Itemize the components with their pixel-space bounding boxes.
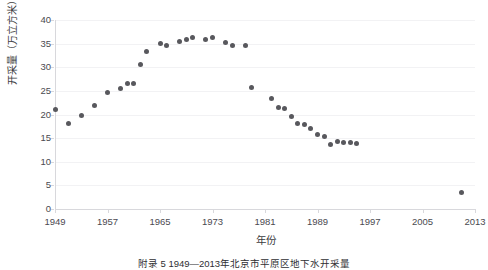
- data-point: [203, 37, 208, 42]
- data-point: [295, 121, 300, 126]
- y-tick-mark: [51, 185, 54, 186]
- x-tick-mark: [108, 210, 109, 213]
- figure-caption: 附录 5 1949—2013年北京市平原区地下水开采量: [0, 256, 488, 270]
- data-point: [190, 35, 195, 40]
- y-tick-mark: [51, 91, 54, 92]
- data-point: [308, 126, 313, 131]
- data-point: [131, 81, 136, 86]
- data-point: [144, 49, 149, 54]
- data-point: [105, 90, 110, 95]
- y-tick-label: 0: [25, 204, 51, 214]
- data-point: [118, 86, 123, 91]
- y-tick-label: 30: [25, 62, 51, 72]
- data-point: [341, 140, 346, 145]
- data-point: [164, 43, 169, 48]
- x-tick-mark: [423, 210, 424, 213]
- data-point: [335, 139, 340, 144]
- data-point: [53, 107, 58, 112]
- data-point: [243, 43, 248, 48]
- y-tick-mark: [51, 115, 54, 116]
- y-axis-title-wrapper: 开采量（万立方米）: [8, 40, 22, 190]
- y-axis-title: 开采量（万立方米）: [4, 0, 19, 90]
- y-tick-label: 10: [25, 157, 51, 167]
- x-tick-mark: [265, 210, 266, 213]
- data-point: [66, 121, 71, 126]
- data-point: [158, 41, 163, 46]
- x-tick-label: 1965: [149, 216, 170, 227]
- x-tick-mark: [318, 210, 319, 213]
- x-tick-label: 2005: [412, 216, 433, 227]
- y-tick-label: 15: [25, 133, 51, 143]
- data-point: [282, 106, 287, 111]
- data-point: [322, 134, 327, 139]
- data-point: [223, 40, 228, 45]
- x-tick-label: 1997: [359, 216, 380, 227]
- data-point: [315, 132, 320, 137]
- x-axis-ticks: 194919571965197319811989199720052013: [55, 210, 476, 230]
- data-point: [276, 105, 281, 110]
- data-point: [184, 37, 189, 42]
- data-point: [348, 140, 353, 145]
- y-tick-mark: [51, 20, 54, 21]
- x-tick-label: 2013: [464, 216, 485, 227]
- x-tick-mark: [213, 210, 214, 213]
- data-point: [138, 62, 143, 67]
- data-point: [328, 142, 333, 147]
- y-tick-label: 20: [25, 110, 51, 120]
- data-point: [289, 114, 294, 119]
- y-tick-mark: [51, 162, 54, 163]
- data-point: [79, 113, 84, 118]
- x-axis-title: 年份: [55, 232, 476, 247]
- x-tick-mark: [475, 210, 476, 213]
- y-tick-mark: [51, 138, 54, 139]
- data-point: [210, 35, 215, 40]
- x-tick-mark: [370, 210, 371, 213]
- x-tick-mark: [160, 210, 161, 213]
- y-tick-label: 25: [25, 86, 51, 96]
- y-tick-label: 35: [25, 39, 51, 49]
- y-tick-label: 5: [25, 180, 51, 190]
- x-tick-label: 1989: [307, 216, 328, 227]
- data-point: [177, 39, 182, 44]
- x-tick-label: 1981: [254, 216, 275, 227]
- data-point: [230, 43, 235, 48]
- x-tick-label: 1957: [97, 216, 118, 227]
- x-tick-label: 1973: [202, 216, 223, 227]
- data-point: [269, 96, 274, 101]
- data-point: [459, 190, 464, 195]
- y-tick-mark: [51, 209, 54, 210]
- x-tick-label: 1949: [44, 216, 65, 227]
- data-point: [354, 141, 359, 146]
- x-tick-mark: [55, 210, 56, 213]
- data-point: [92, 103, 97, 108]
- data-points-layer: [55, 20, 475, 209]
- y-tick-mark: [51, 44, 54, 45]
- data-point: [125, 81, 130, 86]
- y-axis-ticks: 0510152025303540: [21, 20, 51, 210]
- data-point: [249, 85, 254, 90]
- y-tick-mark: [51, 67, 54, 68]
- y-tick-label: 40: [25, 15, 51, 25]
- data-point: [302, 122, 307, 127]
